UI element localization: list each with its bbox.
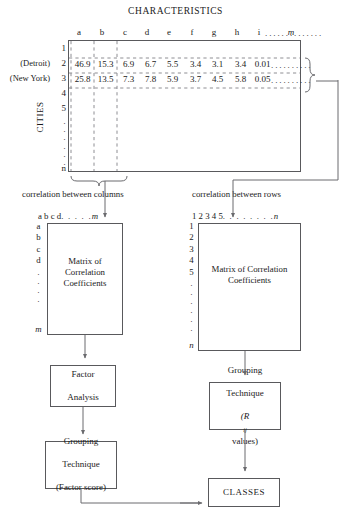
data-cell: 5.5 [161, 59, 184, 69]
left-matrix-col-dots: . . . . . [61, 211, 92, 221]
data-cell: 3.1 [206, 59, 229, 69]
right-matrix-row-last: n [186, 340, 197, 351]
column-header-h: h [230, 27, 244, 37]
column-header-last: m [284, 27, 298, 37]
data-cell: 3.4 [229, 59, 252, 69]
left-matrix-label-3: Coefficients [64, 278, 107, 288]
factor-analysis-line-1: Factor [67, 369, 99, 381]
right-matrix-col-numbers: 1 2 3 4 5 [192, 211, 223, 221]
right-matrix-label-3: Coefficients [228, 275, 271, 285]
caption-correlation-rows: correlation between rows [192, 189, 281, 199]
right-matrix-row-dot-5: · [186, 325, 197, 336]
data-cell: 13.5 [94, 74, 117, 84]
left-matrix-label-1: Matrix of [68, 256, 101, 266]
left-matrix-row-dot-3: · [33, 296, 44, 307]
row-label-1: 1 [52, 43, 66, 53]
column-header-a: a [72, 27, 86, 37]
column-header-g: g [207, 27, 221, 37]
data-cell: 7.8 [139, 74, 162, 84]
city-name-new-york: (New York) [10, 73, 50, 83]
left-matrix-col-letters: a b c d [38, 211, 61, 221]
grouping-rij-line-1: Grouping [226, 365, 263, 377]
classes-label: CLASSES [223, 487, 265, 499]
grouping-rij-line-3: (Rij values) [226, 411, 263, 448]
grouping-factor-line-1: Grouping [56, 436, 106, 448]
right-matrix-row-1: 1 [186, 221, 197, 232]
data-cell: 5.8 [229, 74, 252, 84]
right-matrix-row-5: 5 [186, 267, 197, 278]
grouping-technique-rij-box: Grouping Technique (Rij values) [209, 382, 281, 430]
right-matrix-label-2: Correlation [247, 264, 287, 274]
column-header-b: b [95, 27, 109, 37]
column-header-d: d [140, 27, 154, 37]
right-matrix-col-headers: 1 2 3 4 5. . . . . . . .n [192, 211, 278, 221]
data-cell: 25.8 [71, 74, 94, 84]
data-cell: 3.4 [184, 59, 207, 69]
column-header-i: i [252, 27, 266, 37]
grouping-factor-line-2: Technique [56, 459, 106, 471]
data-row-tail-dots: .......... [271, 75, 313, 85]
grouping-factor-line-3: (Factor score) [56, 482, 106, 494]
right-matrix-label-1: Matrix of [212, 264, 245, 274]
column-header-row: abcdefghi..............m [68, 27, 301, 40]
row-label-2: 2 [52, 58, 66, 68]
right-matrix-row-4: 4 [186, 255, 197, 266]
column-header-e: e [162, 27, 176, 37]
row-label-4: 4 [52, 88, 66, 98]
data-cell: 6.7 [139, 59, 162, 69]
factor-analysis-line-2: Analysis [67, 392, 99, 404]
grouping-technique-factor-box: Grouping Technique (Factor score) [45, 441, 117, 489]
grouping-rij-line-2: Technique [226, 388, 263, 400]
row-label-5: 5 [52, 103, 66, 113]
page-title: CHARACTERISTICS [0, 6, 351, 16]
data-row-tail-dots: .......... [271, 60, 313, 70]
grouping-rij-suffix: values) [226, 436, 263, 448]
city-name-detroit: (Detroit) [20, 58, 50, 68]
right-matrix-row-3: 3 [186, 244, 197, 255]
data-cell: 6.9 [117, 59, 140, 69]
row-label-last: n [52, 163, 66, 173]
left-matrix-row-c: c [33, 244, 44, 255]
left-matrix-row-last: m [33, 324, 44, 335]
factor-analysis-box: Factor Analysis [50, 365, 116, 407]
right-matrix-row-2: 2 [186, 232, 197, 243]
left-matrix-row-d: d [33, 255, 44, 266]
left-matrix-label-2: Correlation [65, 267, 105, 277]
data-cell: 15.3 [94, 59, 117, 69]
grouping-rij-subscript: ij [243, 426, 247, 433]
right-matrix-col-dots: . . . . . . . . [223, 211, 274, 221]
grouping-rij-symbol: (R [226, 411, 263, 423]
data-cell: 3.7 [184, 74, 207, 84]
column-header-f: f [185, 27, 199, 37]
right-correlation-matrix-box: Matrix of Correlation Coefficients [198, 223, 301, 351]
left-matrix-row-a: a [33, 221, 44, 232]
left-matrix-col-last: m [92, 211, 98, 221]
data-cell: 7.3 [117, 74, 140, 84]
left-correlation-matrix-box: Matrix of Correlation Coefficients [47, 223, 123, 335]
columns-brace [71, 176, 127, 186]
cities-axis-label: CITIES [35, 95, 45, 139]
data-cell: 4.5 [206, 74, 229, 84]
right-matrix-col-last: n [274, 211, 278, 221]
column-header-c: c [118, 27, 132, 37]
left-matrix-col-headers: a b c d. . . . .m [38, 211, 98, 221]
left-matrix-row-b: b [33, 232, 44, 243]
data-cell: 5.9 [161, 74, 184, 84]
row-label-3: 3 [52, 73, 66, 83]
data-cell: 46.9 [71, 59, 94, 69]
classes-box: CLASSES [208, 478, 280, 507]
caption-correlation-columns: correlation between columns [22, 189, 124, 199]
